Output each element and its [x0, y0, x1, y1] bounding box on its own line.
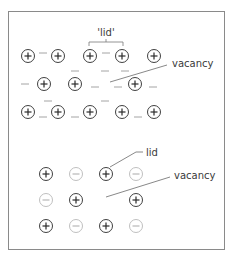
positive-ion-icon	[40, 168, 53, 181]
positive-ion-icon	[130, 194, 143, 207]
lid-label: lid	[146, 147, 158, 158]
ionic-lattice-diagram: 'lid' vacancy lid vacancy	[0, 0, 233, 258]
negative-ion-icon	[70, 168, 83, 181]
vacancy-leader-line	[110, 65, 167, 82]
negative-ion-icon	[70, 220, 83, 233]
top-panel: 'lid' vacancy	[21, 27, 214, 119]
bottom-panel: lid vacancy	[40, 147, 216, 233]
lid-bracket	[89, 39, 123, 46]
ion-lattice	[40, 168, 143, 233]
positive-ions	[22, 50, 161, 119]
positive-ion-icon	[22, 50, 35, 63]
positive-ion-icon	[84, 106, 97, 119]
positive-ion-icon	[70, 194, 83, 207]
negative-ion-icon	[130, 168, 143, 181]
bracket-label: 'lid'	[97, 27, 114, 38]
positive-ion-icon	[38, 78, 51, 91]
vacancy-label-bottom: vacancy	[174, 170, 216, 181]
positive-ion-icon	[148, 106, 161, 119]
positive-ion-icon	[148, 50, 161, 63]
positive-ion-icon	[100, 168, 113, 181]
positive-ion-icon	[52, 50, 65, 63]
negative-ion-icon	[40, 194, 53, 207]
positive-ion-icon	[100, 220, 113, 233]
positive-ion-icon	[116, 50, 129, 63]
vacancy-label-top: vacancy	[172, 58, 214, 69]
positive-ion-icon	[22, 106, 35, 119]
positive-ion-icon	[40, 220, 53, 233]
diagram-frame	[9, 12, 225, 250]
negative-ion-icon	[130, 220, 143, 233]
positive-ion-icon	[129, 78, 142, 91]
positive-ion-icon	[52, 106, 65, 119]
positive-ion-icon	[116, 106, 129, 119]
positive-ion-icon	[84, 50, 97, 63]
positive-ion-icon	[69, 78, 82, 91]
lid-leader-line	[110, 152, 143, 167]
